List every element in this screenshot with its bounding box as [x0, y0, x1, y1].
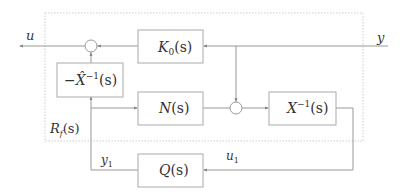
arrow-into-sum1: [97, 45, 101, 48]
block-x-inverse: X−1(s): [269, 92, 336, 125]
signal-y-label: y: [376, 30, 385, 45]
signal-u1-label: u1: [226, 149, 239, 165]
block-diagram: K0(s) −X̂−1(s) N(s) X−1(s) Q(s) u y Rf(s…: [0, 0, 405, 195]
svg-text:N(s): N(s): [158, 100, 189, 116]
signal-u-label: u: [26, 28, 34, 43]
k0-arg: (s): [174, 39, 192, 55]
summing-junction-top: [85, 40, 97, 52]
q-arg: (s): [170, 162, 188, 178]
block-q: Q(s): [138, 154, 203, 187]
n-arg: (s): [171, 100, 189, 116]
u1-main: u: [226, 149, 234, 163]
arrow-into-n: [134, 107, 138, 110]
signal-y1-label: y1: [100, 153, 113, 169]
xinv-arg: (s): [310, 100, 328, 116]
rf-label: Rf(s): [49, 121, 80, 138]
svg-text:K0(s): K0(s): [157, 39, 192, 57]
y1-sub: 1: [108, 160, 113, 169]
arrow-u-out: [19, 45, 23, 48]
block-n: N(s): [138, 92, 203, 125]
xhat-sup: −1: [86, 71, 99, 81]
arrow-into-sum2: [235, 98, 238, 102]
arrow-into-xinv: [265, 107, 269, 110]
rf-arg: (s): [63, 121, 80, 136]
n-main: N: [158, 100, 172, 116]
arrow-xhat-to-sum1: [90, 52, 93, 56]
rf-main: R: [49, 121, 60, 136]
q-main: Q: [159, 162, 171, 178]
arrow-into-q: [203, 169, 207, 172]
block-xhat-inverse: −X̂−1(s): [57, 63, 123, 97]
u1-sub: 1: [234, 156, 239, 165]
summing-junction-middle: [230, 102, 242, 114]
arrow-into-k0: [203, 45, 207, 48]
xinv-sup: −1: [297, 99, 310, 109]
svg-text:Q(s): Q(s): [159, 162, 189, 178]
xhat-arg: (s): [99, 72, 117, 88]
block-k0: K0(s): [138, 30, 203, 63]
xhat-prefix: −: [64, 72, 76, 88]
